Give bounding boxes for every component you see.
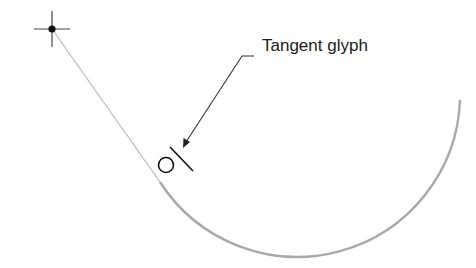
tangent-line[interactable]: [52, 29, 160, 182]
leader-arrow: [183, 56, 254, 148]
diagram-drawing: [0, 0, 476, 268]
tangent-glyph-icon[interactable]: [159, 147, 194, 173]
crosshair-point-icon[interactable]: [34, 11, 70, 47]
annotation-label: Tangent glyph: [262, 36, 368, 56]
diagram-canvas: Tangent glyph: [0, 0, 476, 268]
arc-curve[interactable]: [160, 100, 460, 257]
